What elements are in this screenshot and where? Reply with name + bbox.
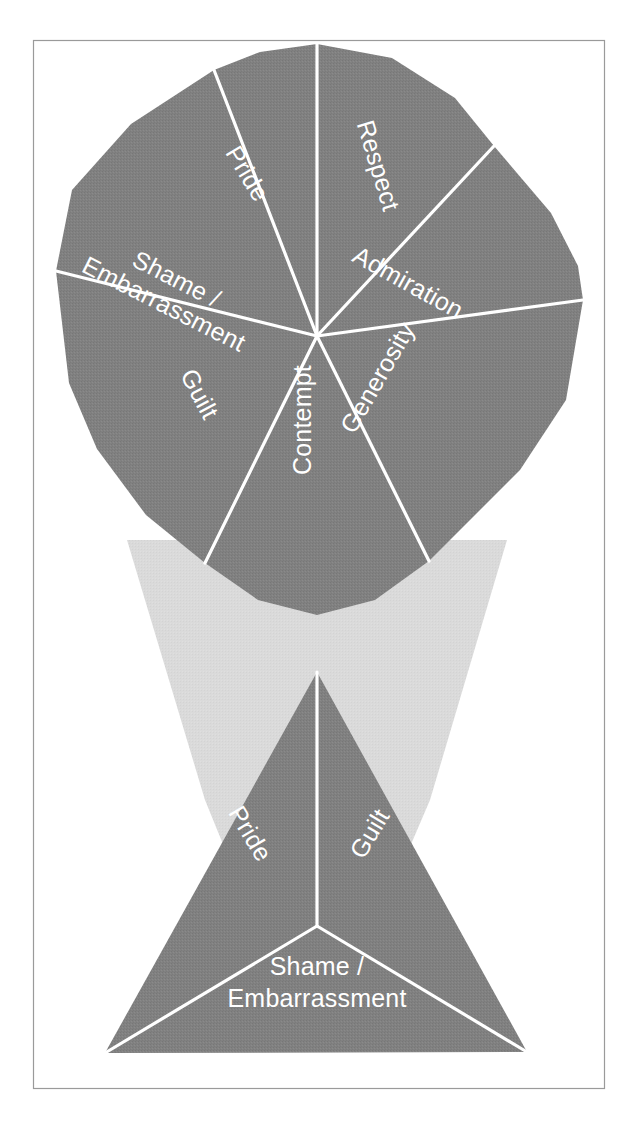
emotions-fan-diagram: Shame / Embarrassment Pride Respect Admi… xyxy=(0,0,639,1126)
label-triangle-shame-line1: Shame / xyxy=(270,952,365,980)
lower-triangle-group: Pride Guilt Shame / Embarrassment xyxy=(105,672,527,1053)
upper-fan-group: Shame / Embarrassment Pride Respect Admi… xyxy=(56,44,583,615)
label-triangle-shame-line2: Embarrassment xyxy=(227,984,406,1012)
label-contempt: Contempt xyxy=(288,365,316,475)
figure-root: Shame / Embarrassment Pride Respect Admi… xyxy=(0,0,639,1126)
